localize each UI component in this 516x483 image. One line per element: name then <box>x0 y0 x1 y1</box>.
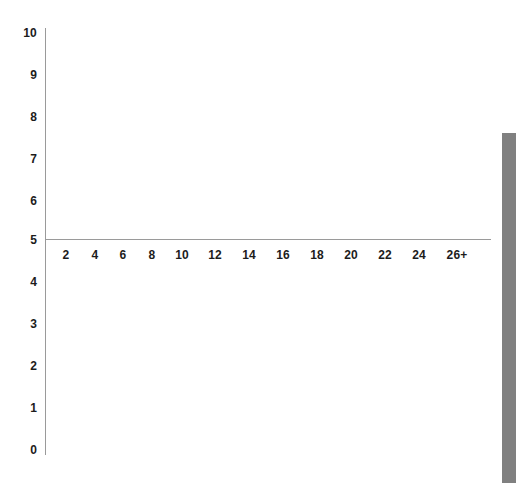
y-axis-tick-labels: 10 9 8 7 6 5 4 3 2 1 0 <box>0 0 37 483</box>
y-tick-label: 4 <box>0 276 37 288</box>
x-tick-label: 8 <box>149 248 156 262</box>
y-tick-label: 5 <box>0 234 37 246</box>
y-tick-label: 3 <box>0 318 37 330</box>
y-tick-label: 1 <box>0 402 37 414</box>
x-axis-line <box>45 239 491 240</box>
y-tick-label: 9 <box>0 69 37 81</box>
plot-area <box>46 28 491 239</box>
x-tick-label: 12 <box>208 248 222 262</box>
x-tick-label: 22 <box>378 248 392 262</box>
scrollbar-track[interactable] <box>502 0 516 483</box>
x-tick-label: 14 <box>242 248 256 262</box>
x-tick-label: 24 <box>412 248 426 262</box>
x-tick-label: 2 <box>63 248 70 262</box>
y-tick-label: 7 <box>0 153 37 165</box>
x-tick-label: 16 <box>276 248 290 262</box>
x-tick-label: 20 <box>344 248 358 262</box>
y-tick-label: 2 <box>0 360 37 372</box>
x-tick-label: 6 <box>120 248 127 262</box>
y-tick-label: 0 <box>0 444 37 456</box>
x-axis-tick-labels: 2 4 6 8 10 12 14 16 18 20 22 24 26+ <box>45 248 491 266</box>
y-tick-label: 8 <box>0 111 37 123</box>
x-tick-label: 18 <box>310 248 324 262</box>
scrollbar-thumb[interactable] <box>502 133 516 483</box>
x-tick-label: 4 <box>92 248 99 262</box>
chart-container: 10 9 8 7 6 5 4 3 2 1 0 2 4 6 8 10 12 14 … <box>0 0 516 483</box>
x-tick-label: 10 <box>175 248 189 262</box>
y-tick-label: 10 <box>0 27 37 39</box>
x-tick-label: 26+ <box>447 248 468 262</box>
y-tick-label: 6 <box>0 195 37 207</box>
